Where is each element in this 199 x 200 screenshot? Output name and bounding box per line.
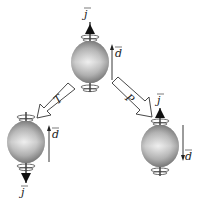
dipole-up-arrow-icon	[47, 125, 51, 131]
time-reversed-particle	[7, 112, 51, 183]
spin-label: j	[81, 8, 88, 21]
spin-label: j	[18, 186, 25, 199]
dipole-label: d	[52, 128, 59, 141]
dipole-up-arrow-icon	[110, 44, 114, 50]
spin-down-arrow-icon	[21, 173, 31, 183]
spin-label: j	[154, 94, 161, 107]
spin-up-arrow-icon	[155, 108, 165, 118]
parity-particle	[141, 108, 185, 176]
original-particle	[71, 22, 114, 92]
dipole-label: d	[185, 150, 192, 163]
spin-up-arrow-icon	[85, 24, 95, 34]
dipole-label: d	[115, 47, 122, 60]
symmetry-diagram: j d T P d j j d	[0, 0, 199, 200]
